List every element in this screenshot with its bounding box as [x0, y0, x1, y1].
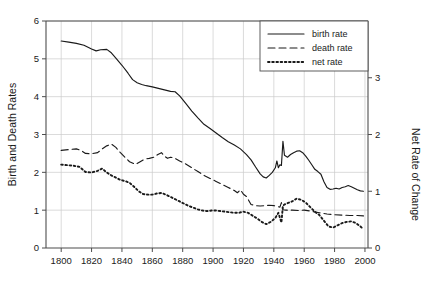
x-tick-label: 1920: [233, 255, 254, 266]
legend-label-net-rate: net rate: [312, 57, 343, 67]
y-tick-label: 1: [34, 205, 39, 216]
x-tick-label: 1900: [203, 255, 224, 266]
y2-tick-label: 0: [375, 242, 380, 253]
x-tick-label: 1800: [51, 255, 72, 266]
y2-tick-label: 1: [375, 186, 380, 197]
birth-death-net-rate-line-chart: 0123456012318001820184018601880190019201…: [0, 0, 431, 287]
x-tick-label: 1820: [81, 255, 102, 266]
legend-label-death-rate: death rate: [312, 43, 353, 53]
y-tick-label: 6: [34, 15, 39, 26]
y2-tick-label: 2: [375, 129, 380, 140]
y-tick-label: 2: [34, 167, 39, 178]
y-tick-label: 4: [34, 91, 39, 102]
x-tick-label: 1880: [172, 255, 193, 266]
x-tick-label: 1960: [294, 255, 315, 266]
x-tick-label: 1860: [142, 255, 163, 266]
y-axis-title: Birth and Death Rates: [6, 83, 18, 186]
legend-label-birth-rate: birth rate: [312, 29, 348, 39]
x-tick-label: 1840: [111, 255, 132, 266]
x-tick-label: 1980: [324, 255, 345, 266]
x-tick-label: 2000: [354, 255, 375, 266]
chart-container: 0123456012318001820184018601880190019201…: [0, 0, 431, 287]
y-tick-label: 5: [34, 53, 39, 64]
y-tick-label: 0: [34, 242, 39, 253]
y2-tick-label: 3: [375, 72, 380, 83]
legend: birth ratedeath ratenet rate: [260, 21, 368, 71]
y2-axis-title: Net Rate of Change: [410, 128, 422, 221]
y-tick-label: 3: [34, 129, 39, 140]
x-tick-label: 1940: [263, 255, 284, 266]
